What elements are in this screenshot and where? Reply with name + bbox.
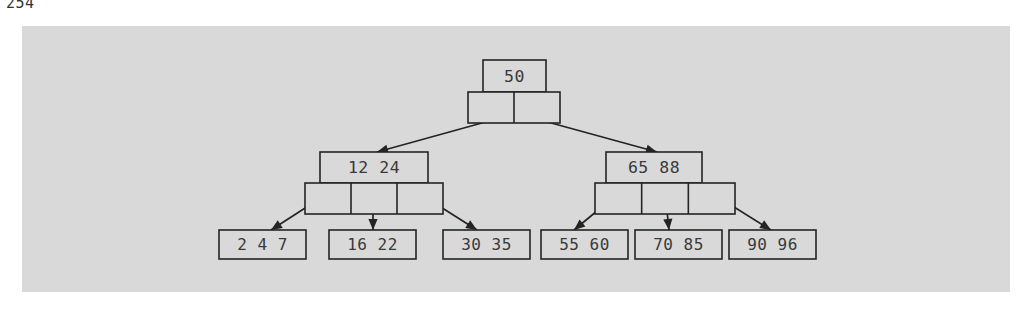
page-number-caption: 254 — [6, 0, 35, 12]
figure-panel — [22, 26, 1010, 292]
